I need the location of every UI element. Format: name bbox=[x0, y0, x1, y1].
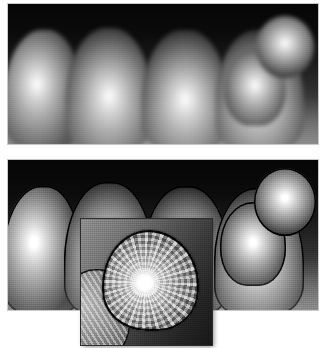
grain-cell bbox=[66, 28, 152, 144]
grain-cell-body bbox=[254, 168, 316, 236]
radial-starburst-pattern bbox=[102, 230, 199, 331]
smooth-rendering-panel[interactable] bbox=[8, 4, 318, 144]
magnified-grain bbox=[102, 230, 199, 331]
magnified-grain-inset[interactable]: High-magnification view of a single grai… bbox=[81, 219, 212, 345]
bright-core bbox=[132, 270, 158, 296]
panel-top-field bbox=[8, 4, 318, 144]
grain-cell bbox=[254, 168, 316, 236]
grain-cell bbox=[256, 16, 314, 78]
figure-container: Grain / bubble cell structure — smooth a… bbox=[0, 0, 326, 348]
grain-cell-body bbox=[256, 16, 314, 78]
grain-cell-body bbox=[66, 28, 152, 144]
